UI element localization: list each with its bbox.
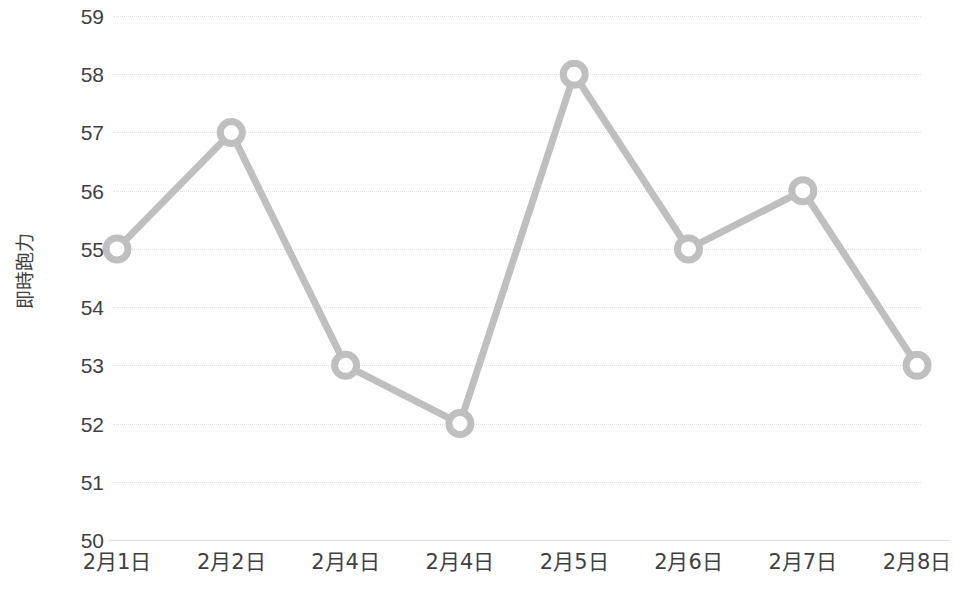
data-point-marker[interactable] (449, 413, 471, 435)
y-axis-title: 即時跑力 (0, 0, 46, 540)
y-axis-tick-label: 55 (60, 238, 104, 259)
y-axis-tick-label: 59 (60, 6, 104, 27)
y-axis-tick-label: 57 (60, 122, 104, 143)
y-axis-tick-label: 53 (60, 355, 104, 376)
data-point-marker[interactable] (906, 354, 928, 376)
data-point-marker[interactable] (678, 238, 700, 260)
y-axis-tick-label: 56 (60, 180, 104, 201)
data-point-marker[interactable] (335, 354, 357, 376)
y-axis-tick-label: 54 (60, 297, 104, 318)
y-axis-tick-label: 52 (60, 413, 104, 434)
data-point-marker[interactable] (563, 63, 585, 85)
x-axis-tick-labels: 2月1日2月2日2月4日2月4日2月5日2月6日2月7日2月8日 (0, 548, 954, 592)
x-axis-tick-label: 2月8日 (837, 548, 954, 577)
plot-area (113, 0, 954, 560)
y-axis-tick-label: 51 (60, 471, 104, 492)
data-series-layer (113, 0, 954, 560)
y-axis-tick-labels: 59585756555453525150 (46, 0, 104, 592)
line-chart: 即時跑力 59585756555453525150 2月1日2月2日2月4日2月… (0, 0, 954, 592)
data-point-marker[interactable] (792, 180, 814, 202)
y-axis-tick-label: 58 (60, 64, 104, 85)
data-point-marker[interactable] (220, 121, 242, 143)
data-point-marker[interactable] (106, 238, 128, 260)
y-axis-title-label: 即時跑力 (10, 232, 37, 308)
